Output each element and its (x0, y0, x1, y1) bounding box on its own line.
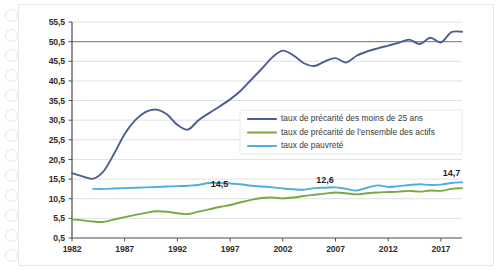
y-axis-tick-label: 55,5 (49, 17, 66, 27)
y-axis-tick-label: 15,5 (49, 174, 66, 184)
legend-label: taux de pauvreté (281, 140, 344, 150)
series-line (72, 31, 462, 179)
y-axis-tick-label: 0,5 (53, 233, 65, 243)
y-axis-tick-label: 10,5 (49, 194, 66, 204)
data-point-label: 12,6 (316, 175, 334, 185)
data-point-label: 14,7 (443, 168, 461, 178)
legend-label: taux de précarité des moins de 25 ans (281, 113, 423, 123)
y-axis-tick-label: 35,5 (49, 96, 66, 106)
series-line (72, 188, 462, 222)
x-axis-tick-label: 2012 (379, 244, 398, 254)
y-axis-tick-label: 30,5 (49, 115, 66, 125)
x-axis-tick-label: 1982 (63, 244, 82, 254)
line-chart: 0,55,510,515,520,525,530,535,540,545,550… (0, 0, 498, 270)
series-line (93, 182, 462, 190)
chart-figure: 0,55,510,515,520,525,530,535,540,545,550… (0, 0, 498, 270)
y-axis-tick-label: 45,5 (49, 56, 66, 66)
x-axis-tick-label: 1992 (168, 244, 187, 254)
data-point-label: 14,5 (211, 179, 229, 189)
y-axis-tick-label: 25,5 (49, 135, 66, 145)
x-axis-tick-label: 1997 (221, 244, 240, 254)
x-axis-tick-label: 2007 (326, 244, 345, 254)
y-axis-tick-label: 5,5 (53, 213, 65, 223)
x-axis-tick-label: 2017 (432, 244, 451, 254)
y-axis-tick-label: 50,5 (49, 37, 66, 47)
y-axis-tick-label: 20,5 (49, 155, 66, 165)
x-axis-tick-label: 2002 (273, 244, 292, 254)
legend-label: taux de précarité de l'ensemble des acti… (281, 127, 435, 137)
y-axis-tick-label: 40,5 (49, 76, 66, 86)
x-axis-tick-label: 1987 (115, 244, 134, 254)
notebook-page: 0,55,510,515,520,525,530,535,540,545,550… (0, 0, 498, 270)
